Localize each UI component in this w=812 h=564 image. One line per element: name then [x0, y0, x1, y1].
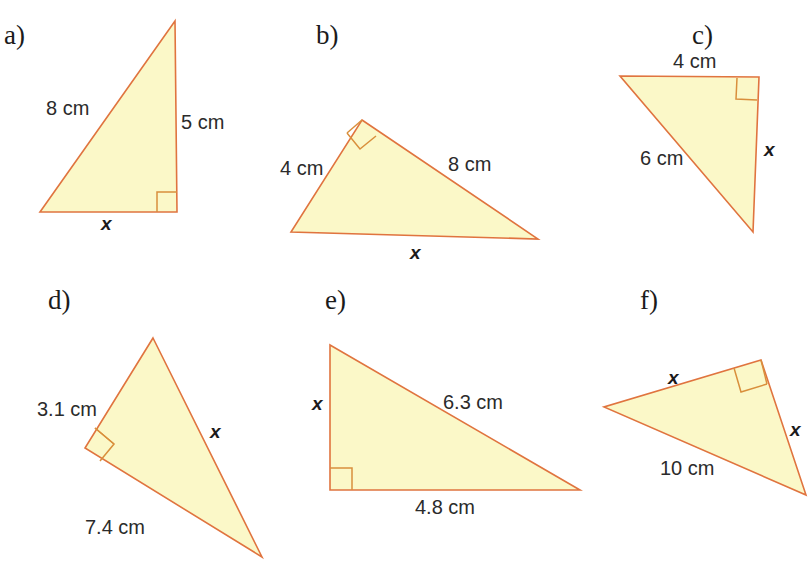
triangle-e	[330, 345, 580, 490]
item-letter-e: e)	[325, 287, 346, 314]
label-f-side-x-top: x	[668, 368, 679, 387]
triangle-b	[291, 120, 538, 239]
label-e-side-4-8cm: 4.8 cm	[415, 497, 475, 517]
worksheet-page: a) b) c) d) e) f) 8 cm 5 cm x 4 cm 8 cm …	[0, 0, 812, 564]
label-c-side-4cm: 4 cm	[673, 51, 716, 71]
label-e-side-x: x	[312, 394, 323, 413]
label-b-side-4cm: 4 cm	[280, 158, 323, 178]
label-c-side-x: x	[764, 140, 775, 159]
item-letter-f: f)	[640, 287, 658, 314]
label-c-side-6cm: 6 cm	[640, 148, 683, 168]
label-a-side-5cm: 5 cm	[181, 112, 224, 132]
item-letter-a: a)	[4, 22, 25, 49]
label-a-side-8cm: 8 cm	[46, 98, 89, 118]
label-f-side-10cm: 10 cm	[660, 458, 714, 478]
label-d-side-x: x	[210, 422, 221, 441]
triangle-figures-layer	[0, 0, 812, 564]
label-b-side-x: x	[410, 243, 421, 262]
item-letter-b: b)	[316, 22, 339, 49]
item-letter-d: d)	[48, 287, 71, 314]
label-d-side-7-4cm: 7.4 cm	[85, 517, 145, 537]
label-d-side-3-1cm: 3.1 cm	[37, 399, 97, 419]
label-f-side-x-right: x	[790, 420, 801, 439]
item-letter-c: c)	[692, 22, 713, 49]
label-e-side-6-3cm: 6.3 cm	[443, 392, 503, 412]
label-a-side-x: x	[101, 214, 112, 233]
label-b-side-8cm: 8 cm	[448, 154, 491, 174]
